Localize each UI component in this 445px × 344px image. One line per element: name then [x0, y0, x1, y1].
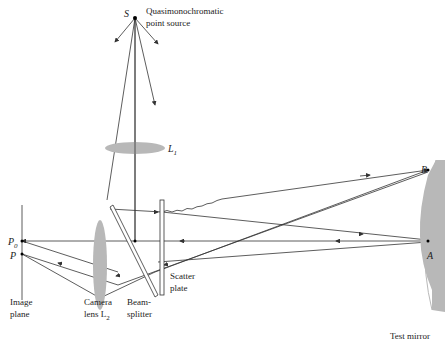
image-plane-label-1: Image: [10, 297, 33, 308]
scatter-plate-label-2: plate: [170, 283, 188, 294]
lens1-label: L1: [168, 143, 177, 159]
camera-lens-label-2: lens L2: [84, 309, 110, 324]
source-label: S: [124, 8, 129, 19]
beamsplitter: [110, 205, 158, 297]
source-desc-line1: Quasimonochromatic: [146, 6, 223, 17]
point-p-label: P: [10, 250, 16, 261]
test-mirror-label: Test mirror: [390, 331, 430, 342]
beamsplitter-label-2: splitter: [127, 309, 152, 320]
test-mirror: [420, 160, 445, 312]
scatter-plate-label-1: Scatter: [170, 271, 195, 282]
point-p0-dot: [21, 240, 24, 243]
source-ray-down-right: [135, 18, 155, 105]
source-desc-line2: point source: [146, 18, 190, 29]
optical-setup-diagram: [0, 0, 445, 344]
point-b-label: B: [421, 164, 427, 175]
point-p-dot: [21, 253, 24, 256]
point-a-dot: [427, 240, 430, 243]
source-point: [133, 16, 137, 20]
scatter-plate: [160, 200, 164, 295]
point-a-label: A: [427, 250, 433, 261]
ray-to-lens1: [107, 18, 135, 200]
image-plane-label-2: plane: [10, 309, 30, 320]
beamsplitter-label-1: Beam-: [127, 297, 151, 308]
camera-lens-label-1: Camera: [84, 297, 112, 308]
